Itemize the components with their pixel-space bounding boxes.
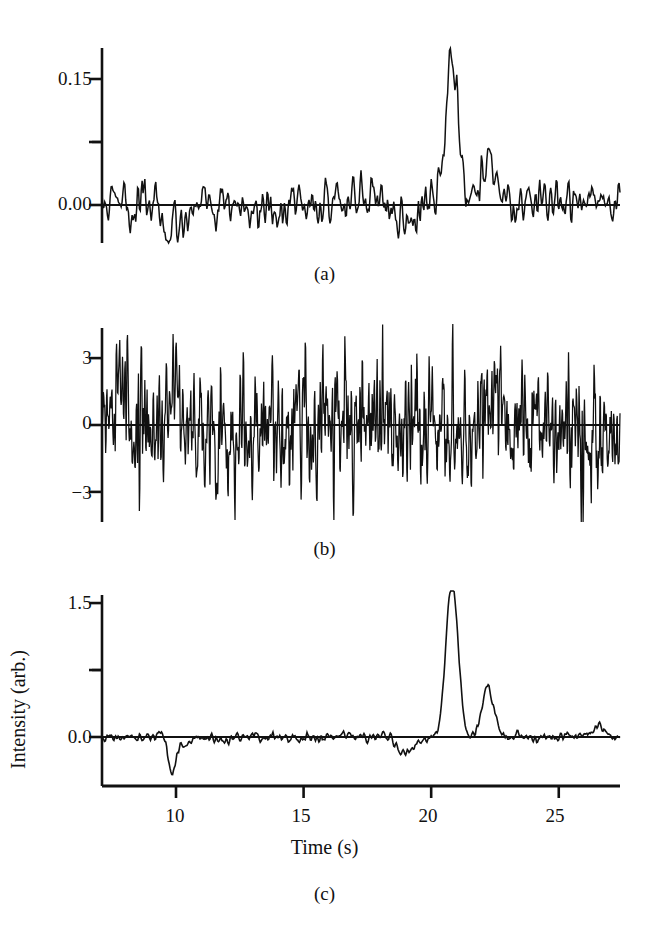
x-axis-title: Time (s): [0, 836, 649, 859]
panel-b-ytick-label-2: −3: [20, 482, 92, 504]
panel-b-caption: (b): [0, 538, 649, 560]
panel-a-caption: (a): [0, 263, 649, 285]
panel-c-plot: [0, 565, 649, 927]
panel-c-xtick-label-25: 25: [533, 805, 577, 827]
panel-c-data-trace: [102, 591, 620, 775]
panel-a-ytick-label-0: 0.15: [20, 68, 92, 90]
figure-container: 0.15 0.00 (a) 3 0 −3 Intensity (arb.) (b…: [0, 0, 649, 927]
panel-c-xtick-label-20: 20: [406, 805, 450, 827]
panel-c-ytick-label-1: 0.0: [20, 726, 92, 748]
panel-b-ytick-label-0: 3: [20, 347, 92, 369]
panel-c-ytick-label-0: 1.5: [20, 592, 92, 614]
panel-c-xtick-label-10: 10: [153, 805, 197, 827]
panel-a: 0.15 0.00 (a): [0, 0, 649, 300]
panel-a-plot: [0, 0, 649, 300]
panel-c: 1.5 0.0 10 15 20 25 Time (s) (c): [0, 565, 649, 927]
panel-b: 3 0 −3 Intensity (arb.) (b): [0, 290, 649, 575]
panel-b-data-trace: [102, 324, 620, 522]
panel-a-ytick-label-1: 0.00: [20, 193, 92, 215]
panel-b-plot: [0, 290, 649, 575]
panel-c-xtick-label-15: 15: [279, 805, 323, 827]
panel-b-ytick-label-1: 0: [20, 412, 92, 434]
panel-a-data-trace: [102, 48, 620, 243]
panel-c-caption: (c): [0, 883, 649, 905]
